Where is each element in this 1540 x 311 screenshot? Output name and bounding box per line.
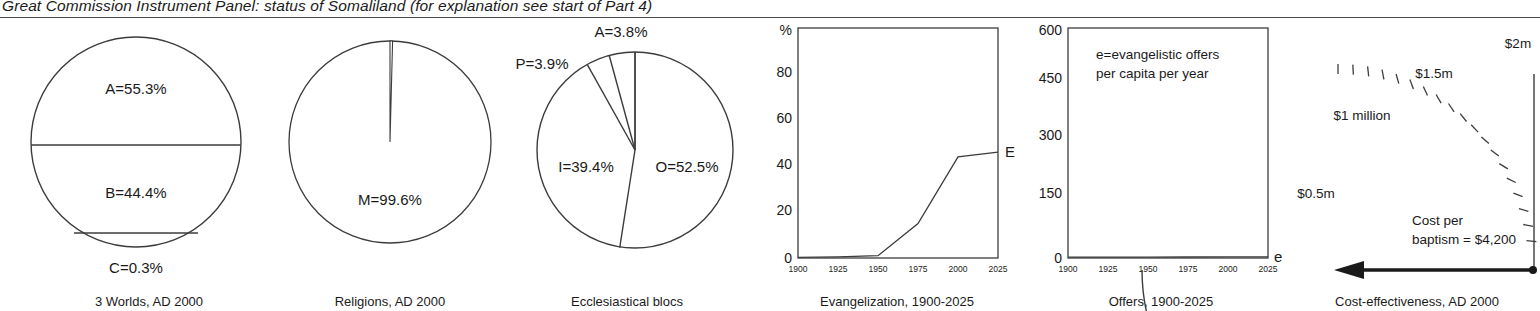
x-tick-label: 1950 [869,264,888,274]
annotation-line-2: baptism = $4,200 [1412,232,1516,247]
y-tick-label: 40 [776,156,792,172]
chart-evangelization: % 80 60 40 20 0 1900 1925 1950 1975 2000… [762,20,1032,311]
y-tick-label: 80 [776,64,792,80]
gauge-label-2m: $2m [1505,36,1531,51]
y-axis-unit: % [780,22,792,38]
x-tick-label: 1925 [829,264,848,274]
chart-three-worlds: A=55.3% B=44.4% C=0.3% 3 Worlds, AD 2000 [14,20,284,311]
x-tick-label: 2000 [949,264,968,274]
annotation-line-1: e=evangelistic offers [1096,47,1219,62]
y-tick-label: 600 [1039,22,1063,38]
chart-caption: Ecclesiastical blocs [496,294,758,309]
chart-offers: 600 450 300 150 0 1900 1925 1950 1975 20… [1022,20,1300,311]
slice-label-b: B=44.4% [105,184,166,201]
slice-label-m: M=99.6% [358,191,422,208]
x-tick-label: 1975 [909,264,928,274]
series-label-e: e [1274,248,1282,265]
slice-label-a: A=55.3% [105,80,166,97]
title-divider [0,17,1540,18]
chart-caption: Cost-effectiveness, AD 2000 [1294,294,1540,309]
slice-label-c: C=0.3% [109,259,163,276]
x-tick-label: 1975 [1179,264,1198,274]
page-title: Great Commission Instrument Panel: statu… [2,0,652,15]
gauge-pivot [1529,266,1537,274]
chart-caption: Evangelization, 1900-2025 [762,294,1032,309]
slice-label-a: A=3.8% [595,23,648,40]
chart-caption: 3 Worlds, AD 2000 [14,294,284,309]
y-tick-label: 300 [1039,127,1063,143]
plot-frame [1068,28,1268,258]
x-tick-label: 1925 [1099,264,1118,274]
gauge-label-1m: $1 million [1333,108,1390,123]
y-tick-label: 150 [1039,185,1063,201]
annotation-line-1: Cost per [1412,213,1464,228]
annotation-line-2: per capita per year [1096,66,1209,81]
slice-label-i: I=39.4% [558,158,613,175]
evangelization-graphic: % 80 60 40 20 0 1900 1925 1950 1975 2000… [762,20,1032,282]
x-tick-label: 1900 [789,264,808,274]
y-tick-label: 60 [776,110,792,126]
series-label-e: E [1005,143,1015,160]
gauge-label-1-5m: $1.5m [1415,66,1453,81]
y-tick-label: 20 [776,202,792,218]
three-worlds-graphic: A=55.3% B=44.4% C=0.3% [14,20,284,282]
chart-cost-effectiveness: $0.5m $1 million $1.5m $2m Cost per bapt… [1294,20,1540,311]
y-tick-label: 450 [1039,70,1063,86]
chart-caption: Religions, AD 2000 [284,294,496,309]
chart-caption: Offers, 1900-2025 [1022,294,1300,309]
cost-effectiveness-graphic: $0.5m $1 million $1.5m $2m Cost per bapt… [1294,20,1540,282]
chart-ecclesiastical-blocs: O=52.5% I=39.4% P=3.9% A=3.8% Ecclesiast… [496,20,758,311]
blocs-graphic: O=52.5% I=39.4% P=3.9% A=3.8% [496,20,758,282]
x-tick-label: 1900 [1059,264,1078,274]
slice-label-o: O=52.5% [656,158,719,175]
gauge-needle-arrowhead [1334,261,1364,279]
gauge-label-0-5m: $0.5m [1297,186,1335,201]
x-tick-label: 2025 [989,264,1008,274]
x-tick-label: 2000 [1219,264,1238,274]
offers-graphic: 600 450 300 150 0 1900 1925 1950 1975 20… [1022,20,1300,282]
pie-outline [31,37,241,247]
chart-religions: M=99.6% Religions, AD 2000 [284,20,496,311]
instrument-panel: Great Commission Instrument Panel: statu… [0,0,1540,311]
religions-graphic: M=99.6% [284,20,496,282]
x-tick-label: 2025 [1259,264,1278,274]
plot-frame [798,28,998,258]
slice-label-p: P=3.9% [516,55,569,72]
